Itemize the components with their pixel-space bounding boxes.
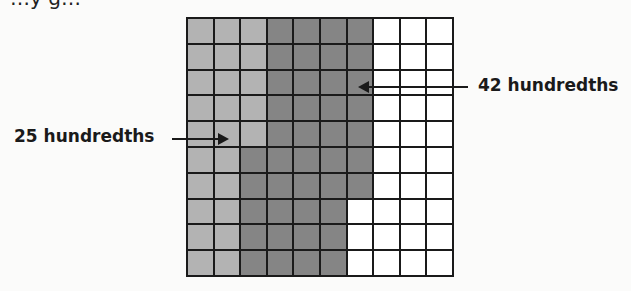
grid-cell — [215, 148, 240, 172]
grid-cell — [401, 71, 426, 95]
grid-cell — [188, 174, 213, 198]
arrow-left-icon — [360, 86, 468, 88]
grid-cell — [294, 45, 319, 69]
grid-cell — [401, 174, 426, 198]
grid-cell — [268, 200, 293, 224]
grid-cell — [374, 174, 399, 198]
grid-cell — [427, 251, 452, 275]
grid-cell — [294, 71, 319, 95]
grid-cell — [374, 96, 399, 120]
grid-cell — [294, 225, 319, 249]
grid-cell — [374, 19, 399, 43]
grid-cell — [294, 96, 319, 120]
grid-cell — [241, 71, 266, 95]
grid-cell — [321, 19, 346, 43]
grid-cell — [401, 148, 426, 172]
grid-cell — [321, 200, 346, 224]
grid-cell — [374, 148, 399, 172]
grid-cell — [321, 122, 346, 146]
grid-cell — [427, 45, 452, 69]
grid-cell — [427, 225, 452, 249]
grid-cell — [268, 251, 293, 275]
grid-cell — [401, 19, 426, 43]
grid-cell — [294, 122, 319, 146]
grid-cell — [215, 96, 240, 120]
grid-cell — [401, 122, 426, 146]
grid-cell — [268, 45, 293, 69]
grid-cell — [321, 45, 346, 69]
grid-cell — [268, 71, 293, 95]
grid-cell — [188, 148, 213, 172]
grid-cell — [348, 96, 373, 120]
grid-cell — [401, 251, 426, 275]
grid-cell — [215, 71, 240, 95]
grid-cell — [188, 122, 213, 146]
grid-cell — [348, 122, 373, 146]
grid-cell — [188, 225, 213, 249]
grid-cell — [348, 19, 373, 43]
grid-cell — [401, 45, 426, 69]
grid-cell — [294, 251, 319, 275]
grid-cell — [241, 200, 266, 224]
grid-cell — [427, 19, 452, 43]
grid-cell — [241, 148, 266, 172]
grid-cell — [294, 19, 319, 43]
grid-cell — [321, 174, 346, 198]
grid-cell — [188, 96, 213, 120]
grid-cell — [321, 251, 346, 275]
grid-cell — [348, 174, 373, 198]
grid-cell — [374, 45, 399, 69]
grid-cell — [268, 225, 293, 249]
grid-cell — [215, 45, 240, 69]
grid-cell — [348, 200, 373, 224]
grid-cell — [321, 71, 346, 95]
grid-cell — [374, 200, 399, 224]
grid-cell — [374, 71, 399, 95]
grid-cell — [188, 71, 213, 95]
grid-cell — [215, 174, 240, 198]
grid-cell — [188, 45, 213, 69]
grid-cell — [427, 122, 452, 146]
grid-cell — [427, 148, 452, 172]
grid-cell — [188, 200, 213, 224]
grid-cell — [188, 19, 213, 43]
grid-cell — [241, 122, 266, 146]
grid-cell — [427, 71, 452, 95]
grid-cell — [427, 200, 452, 224]
grid-cell — [401, 200, 426, 224]
grid-cell — [241, 96, 266, 120]
grid-cell — [321, 96, 346, 120]
grid-cell — [348, 45, 373, 69]
grid-cell — [374, 251, 399, 275]
grid-cell — [268, 19, 293, 43]
arrow-right-icon — [172, 138, 227, 140]
grid-cell — [215, 251, 240, 275]
grid-cell — [374, 225, 399, 249]
grid-cell — [268, 174, 293, 198]
label-42-hundredths: 42 hundredths — [478, 75, 618, 95]
grid-cell — [268, 148, 293, 172]
grid-cell — [241, 225, 266, 249]
grid-cell — [294, 148, 319, 172]
hundredths-grid — [186, 17, 454, 277]
grid-cell — [268, 122, 293, 146]
grid-cell — [321, 225, 346, 249]
label-25-hundredths: 25 hundredths — [14, 126, 154, 146]
grid-cell — [241, 19, 266, 43]
grid-cell — [348, 148, 373, 172]
grid-cell — [401, 96, 426, 120]
grid-cell — [215, 19, 240, 43]
grid-cell — [294, 200, 319, 224]
grid-cell — [268, 96, 293, 120]
grid-cell — [241, 251, 266, 275]
grid-cell — [427, 96, 452, 120]
cropped-caption: …y g… — [10, 0, 81, 10]
grid-cell — [241, 174, 266, 198]
grid-cell — [348, 225, 373, 249]
grid-cell — [427, 174, 452, 198]
grid-cell — [215, 225, 240, 249]
grid-cell — [374, 122, 399, 146]
grid-cell — [215, 200, 240, 224]
grid-cell — [241, 45, 266, 69]
grid-cell — [321, 148, 346, 172]
